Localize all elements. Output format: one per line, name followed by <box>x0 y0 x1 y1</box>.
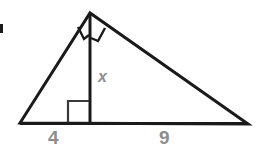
apex-right-angle-mark-icon <box>91 28 105 41</box>
geometry-figure: 4 9 x <box>0 0 260 152</box>
edge-artifact-mark <box>0 24 3 33</box>
right-angle-square-icon <box>68 101 89 122</box>
left-segment-label: 4 <box>48 128 59 147</box>
altitude-label: x <box>98 69 107 85</box>
triangle-outline <box>20 13 248 124</box>
right-segment-label: 9 <box>159 128 170 147</box>
apex-left-angle-mark-icon <box>78 27 89 39</box>
triangle-diagram-svg <box>0 0 260 152</box>
